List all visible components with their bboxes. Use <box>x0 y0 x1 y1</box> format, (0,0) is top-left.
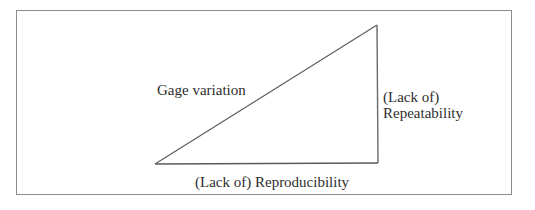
repeatability-label-line1: (Lack of) <box>383 89 463 105</box>
repeatability-label-line2: Repeatability <box>383 105 463 121</box>
horizontal-leg-line <box>155 163 378 164</box>
repeatability-label: (Lack of) Repeatability <box>383 89 463 121</box>
vertical-leg-line <box>377 25 378 163</box>
gage-variation-label: Gage variation <box>157 82 246 98</box>
reproducibility-label: (Lack of) Reproducibility <box>195 174 349 190</box>
